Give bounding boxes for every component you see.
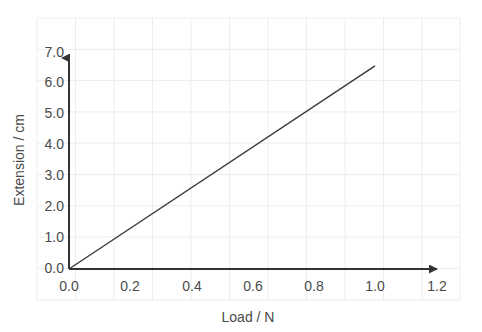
extension-load-chart: 7.0 6.0 5.0 4.0 3.0 2.0 1.0 0.0 0.0 0.2 …: [0, 0, 482, 332]
y-tick-label: 3.0: [45, 167, 65, 183]
y-tick-label: 5.0: [45, 105, 65, 121]
x-tick-label: 1.0: [365, 278, 385, 294]
x-tick-label: 0.6: [243, 278, 263, 294]
x-axis-title: Load / N: [222, 309, 275, 325]
grid-lines: [37, 18, 460, 300]
y-tick-label: 2.0: [45, 198, 65, 214]
y-axis-tick-labels: 7.0 6.0 5.0 4.0 3.0 2.0 1.0 0.0: [45, 44, 65, 276]
x-tick-label: 1.2: [427, 278, 447, 294]
x-tick-label: 0.4: [182, 278, 202, 294]
x-axis-tick-labels: 0.0 0.2 0.4 0.6 0.8 1.0 1.2: [59, 278, 447, 294]
x-tick-label: 0.2: [120, 278, 140, 294]
chart-container: 7.0 6.0 5.0 4.0 3.0 2.0 1.0 0.0 0.0 0.2 …: [0, 0, 482, 332]
y-tick-label: 4.0: [45, 136, 65, 152]
y-tick-label: 0.0: [45, 260, 65, 276]
x-tick-label: 0.0: [59, 278, 79, 294]
y-tick-label: 6.0: [45, 74, 65, 90]
data-line-extension-vs-load: [69, 66, 375, 269]
y-tick-label: 1.0: [45, 229, 65, 245]
y-axis-title: Extension / cm: [11, 114, 27, 206]
y-tick-label: 7.0: [45, 44, 65, 60]
x-tick-label: 0.8: [304, 278, 324, 294]
